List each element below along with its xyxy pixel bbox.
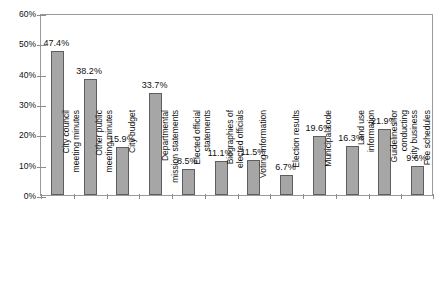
y-axis-tick-label: 30% <box>19 101 36 110</box>
y-axis-tick-label: 40% <box>19 70 36 79</box>
x-axis-tick-mark <box>41 194 42 199</box>
x-axis-category-label: City budget <box>127 110 137 202</box>
x-axis-tick-mark <box>336 194 337 199</box>
y-axis-tick-label: 20% <box>19 131 36 140</box>
bar-value-label: 38.2% <box>67 67 111 76</box>
x-axis-tick-mark <box>303 194 304 199</box>
x-axis-category-label: Voting information <box>258 110 268 202</box>
x-axis-tick-mark <box>139 194 140 199</box>
x-axis-category-label: Municipal code <box>323 110 333 202</box>
x-axis-category-label: Fee schedules <box>422 110 432 202</box>
x-axis-tick-mark <box>433 194 434 199</box>
y-axis-tick-mark <box>37 167 46 168</box>
y-axis-tick-mark <box>37 106 46 107</box>
x-axis-category-label: Departmental mission statements <box>160 110 180 202</box>
x-axis-category-label: Election results <box>291 110 301 202</box>
x-axis-category-label: City council meeting minutes <box>61 110 81 202</box>
x-axis-category-label: Land use information <box>356 110 376 202</box>
bar-value-label: 6.7% <box>264 163 308 172</box>
x-axis-category-label: Other public meeting minutes <box>94 110 114 202</box>
bar-value-label: 33.7% <box>133 81 177 90</box>
x-axis-category-label: Elected official statements <box>192 110 212 202</box>
x-axis-category-label: Biographies of elected officials <box>225 110 245 202</box>
bar-value-label: 19.6% <box>296 124 340 133</box>
bar-value-label: 47.4% <box>34 39 78 48</box>
y-axis-tick-mark <box>37 136 46 137</box>
x-axis-category-label: Guidelines for conducting city business <box>389 110 419 202</box>
y-axis-tick-label: 0% <box>24 192 36 201</box>
y-axis-tick-mark <box>37 76 46 77</box>
bar-chart: 0%10%20%30%40%50%60% 47.4%38.2%15.9%33.7… <box>0 0 441 299</box>
x-axis-tick-mark <box>270 194 271 199</box>
y-axis-tick-mark <box>37 15 46 16</box>
y-axis-tick-label: 60% <box>19 10 36 19</box>
y-axis-tick-label: 10% <box>19 161 36 170</box>
